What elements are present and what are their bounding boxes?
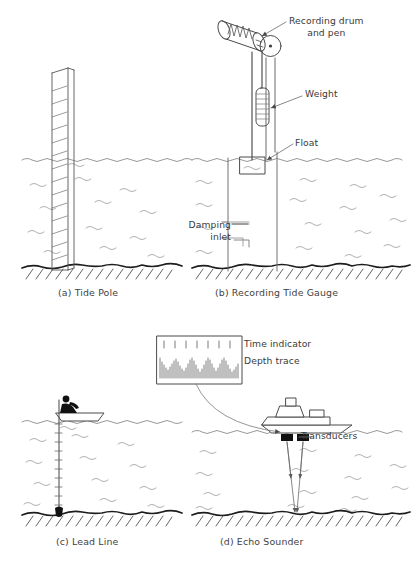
seabed-c [22, 511, 182, 526]
tide-pole-graduations [52, 86, 67, 260]
survey-ship [262, 398, 352, 433]
echo-beams [287, 442, 303, 512]
counterweight [256, 88, 269, 126]
callout-damping-line1: Damping [184, 219, 231, 231]
seabed-a [22, 264, 182, 279]
tide-pole-staff [52, 68, 74, 270]
lead-sinker [55, 507, 63, 518]
seabed-b [192, 264, 410, 279]
callout-recording-drum-line2: and pen [289, 27, 364, 39]
callout-weight: Weight [305, 88, 338, 100]
panel-caption-c: (c) Lead Line [56, 536, 118, 547]
diagram-canvas [0, 0, 418, 571]
callout-damping-line2: inlet [184, 231, 231, 243]
panel-a-tide-pole [22, 68, 192, 279]
gauge-wires [252, 52, 262, 160]
panel-caption-b: (b) Recording Tide Gauge [215, 287, 338, 298]
panel-c-lead-line [22, 396, 182, 526]
water-surface-line-c [22, 421, 182, 424]
leadsman-silhouette [60, 396, 79, 413]
wavelets-a [28, 164, 164, 258]
figure-root: Recording drum and pen Weight Float Damp… [0, 0, 418, 571]
wavelets-b [196, 167, 406, 258]
wavelets-c [24, 427, 164, 508]
callout-time-indicator: Time indicator [244, 338, 311, 350]
callout-damping-inlet: Damping inlet [184, 219, 231, 242]
dinghy [56, 413, 104, 421]
footer-cut-off-caption [0, 563, 418, 571]
damping-bracket [228, 222, 249, 246]
water-surface-line-b [192, 159, 402, 162]
seabed-d [192, 511, 410, 526]
transducer-left [281, 434, 293, 441]
panel-caption-d: (d) Echo Sounder [220, 536, 304, 547]
callout-recording-drum-line1: Recording drum [289, 15, 364, 27]
sounding-line-marks [55, 424, 62, 505]
stilling-well-tube [228, 152, 277, 271]
panel-caption-a: (a) Tide Pole [58, 287, 118, 298]
callout-depth-trace: Depth trace [244, 355, 300, 367]
chart-recorder [157, 336, 242, 384]
callout-float: Float [295, 137, 318, 149]
pen-trace [228, 24, 252, 39]
water-surface-line-a [22, 159, 192, 162]
callout-transducers: Transducers [301, 430, 357, 442]
recording-drum [216, 19, 268, 53]
callout-recording-drum: Recording drum and pen [289, 15, 364, 38]
